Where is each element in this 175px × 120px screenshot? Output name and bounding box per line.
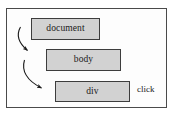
diagram-root: document body div click <box>0 0 175 120</box>
click-label: click <box>137 85 155 94</box>
node-div[interactable]: div <box>55 81 130 102</box>
node-document-label: document <box>46 24 84 34</box>
node-body[interactable]: body <box>46 49 121 71</box>
node-document[interactable]: document <box>31 18 100 40</box>
node-div-label: div <box>86 87 98 97</box>
node-body-label: body <box>74 55 93 65</box>
